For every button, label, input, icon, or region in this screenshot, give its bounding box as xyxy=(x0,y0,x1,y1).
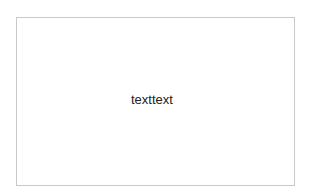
text-box-container: texttext xyxy=(16,17,295,186)
box-text: texttext xyxy=(131,92,173,108)
